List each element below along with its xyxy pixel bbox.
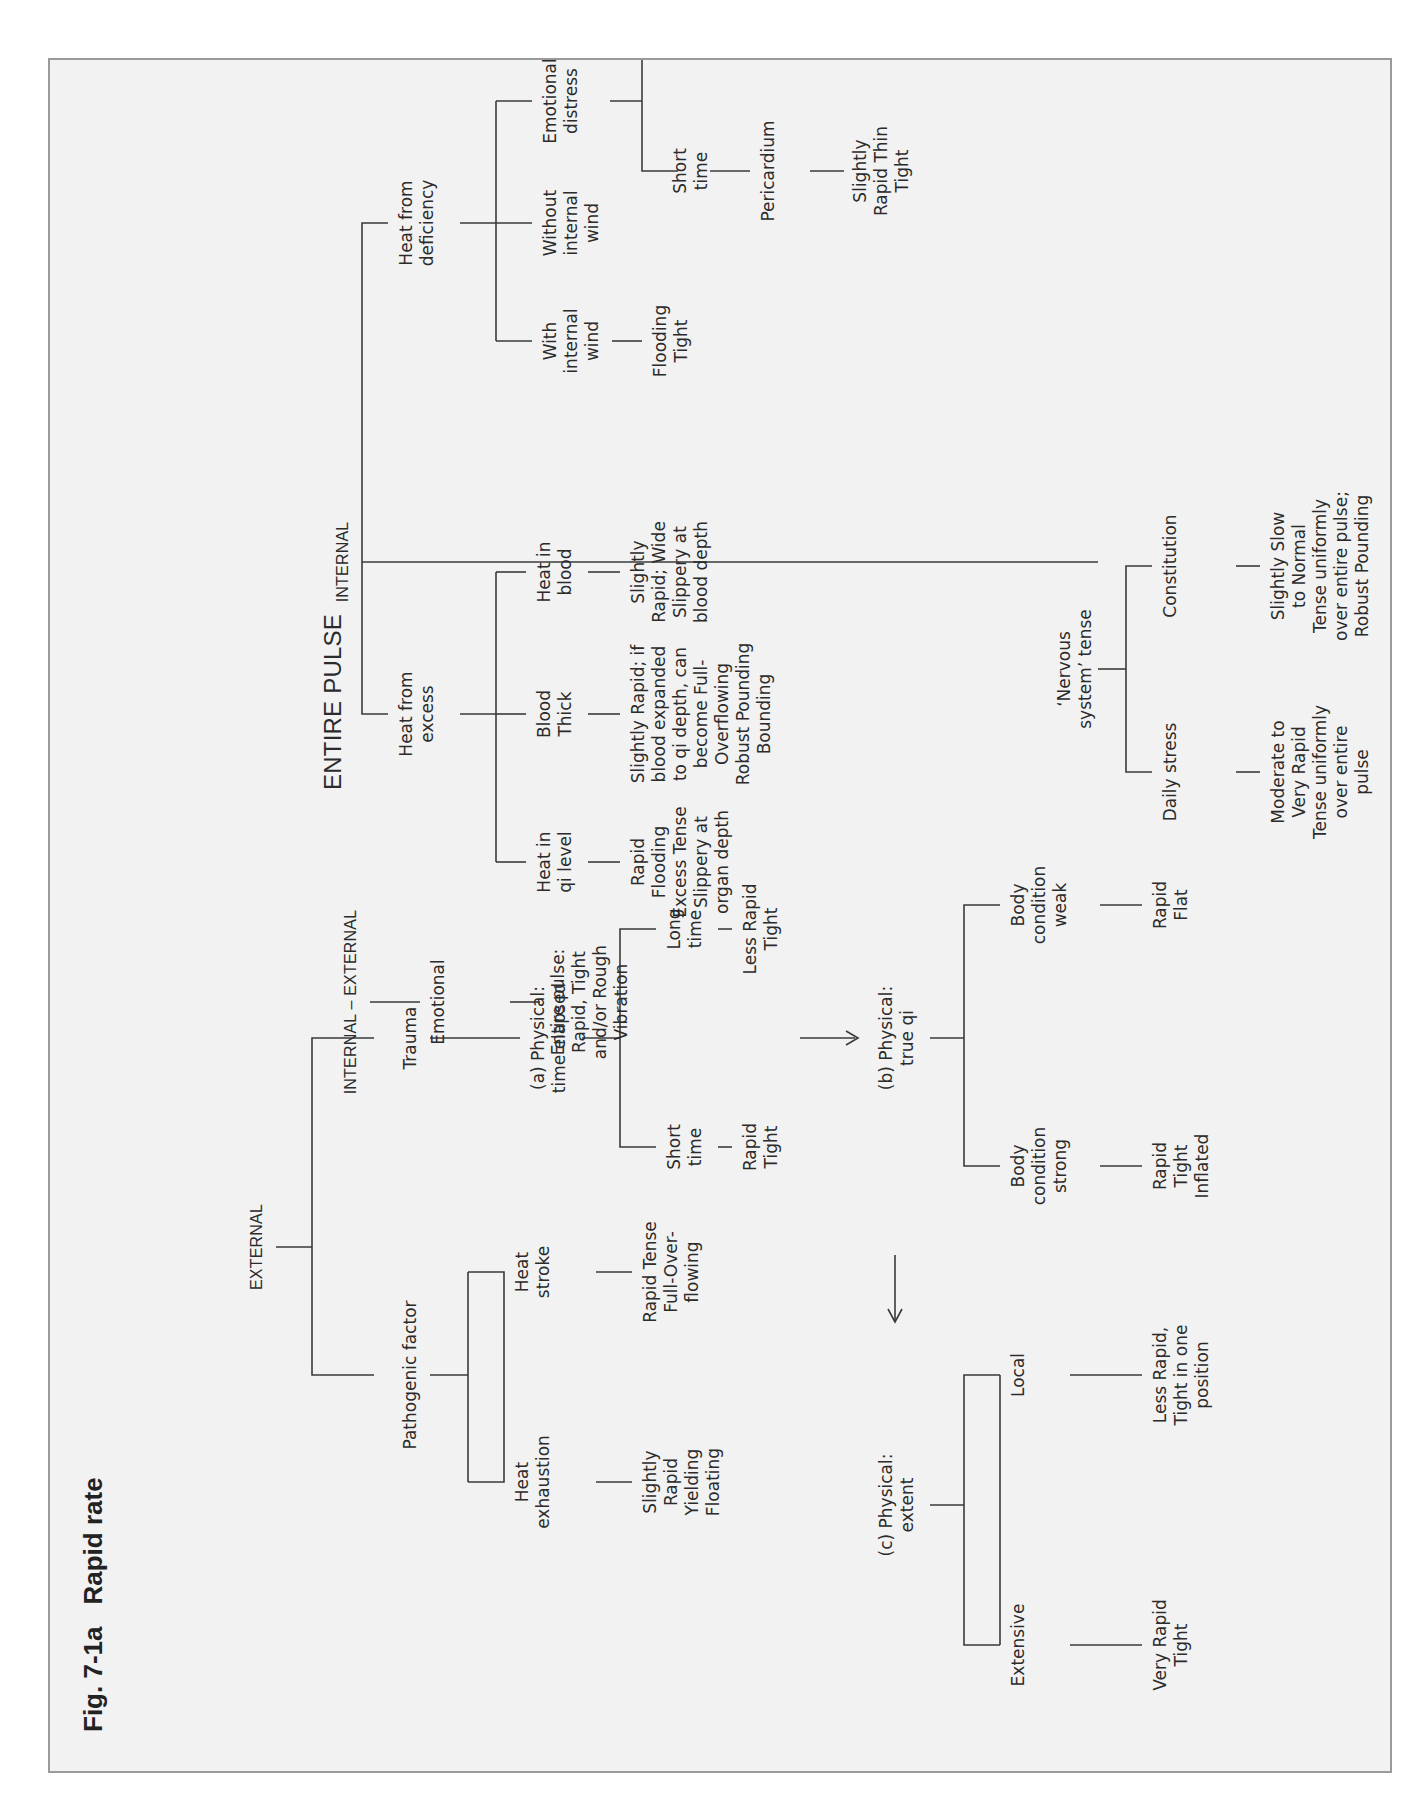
node-pericardium: Pericardium [758, 120, 779, 221]
figure-frame: Fig. 7-1aRapid rate EXTERNAL INTERNAL – … [48, 58, 1392, 1773]
result-heat-in-qi-level: Rapid Flooding Excess Tense Slippery at … [628, 806, 733, 917]
node-emotional-distress: Emotional distress [540, 58, 582, 143]
node-without-internal-wind: Without internal wind [540, 190, 603, 256]
node-local: Local [1008, 1353, 1029, 1397]
result-heat-in-blood: Slightly Rapid; Wide Slippery at blood d… [628, 521, 712, 623]
node-physical-extent: (c) Physical: extent [876, 1454, 918, 1557]
header-entire-pulse: ENTIRE PULSE [322, 614, 343, 790]
node-body-weak: Body condition weak [1008, 866, 1071, 945]
result-body-strong: Rapid Tight Inflated [1150, 1134, 1213, 1199]
node-constitution: Constitution [1160, 514, 1181, 617]
node-extensive: Extensive [1008, 1604, 1029, 1687]
result-long-time-a: Less Rapid Tight [740, 884, 782, 975]
result-blood-thick: Slightly Rapid; if blood expanded to qi … [628, 643, 775, 786]
figure-title-text: Rapid rate [78, 1477, 108, 1604]
figure-number: Fig. 7-1a [78, 1627, 108, 1732]
result-extensive: Very Rapid Tight [1150, 1599, 1192, 1690]
result-daily-stress: Moderate to Very Rapid Tense uniformly o… [1268, 705, 1373, 839]
node-body-strong: Body condition strong [1008, 1127, 1071, 1206]
result-heat-exhaustion: Slightly Rapid Yielding Floating [640, 1448, 724, 1516]
node-heat-from-excess: Heat from excess [396, 671, 438, 756]
result-heat-stroke: Rapid Tense Full-Over- flowing [640, 1221, 703, 1323]
node-short-time-deficiency: Short time [670, 148, 712, 194]
result-with-internal-wind: Flooding Tight [650, 305, 692, 377]
node-nervous-system-tense: ‘Nervous system’ tense [1054, 609, 1096, 728]
node-daily-stress: Daily stress [1160, 723, 1181, 822]
figure-title: Fig. 7-1aRapid rate [78, 1477, 109, 1732]
header-internal-external: INTERNAL – EXTERNAL [340, 910, 361, 1095]
node-trauma: Trauma [400, 1006, 421, 1069]
header-external: EXTERNAL [246, 1204, 267, 1290]
node-heat-stroke: Heat stroke [512, 1246, 554, 1298]
node-pathogenic-factor: Pathogenic factor [400, 1300, 421, 1449]
result-pericardium: Slightly Rapid Thin Tight [850, 126, 913, 216]
result-body-weak: Rapid Flat [1150, 881, 1192, 929]
diagram-canvas: Fig. 7-1aRapid rate EXTERNAL INTERNAL – … [50, 60, 1394, 1775]
result-short-time-a: Rapid Tight [740, 1123, 782, 1171]
node-heat-from-deficiency: Heat from deficiency [396, 180, 438, 267]
node-emotional: Emotional [428, 959, 449, 1044]
result-emotional: Entire pulse: Rapid, Tight and/or Rough … [548, 945, 632, 1059]
node-heat-in-blood: Heat in blood [534, 541, 576, 602]
node-heat-exhaustion: Heat exhaustion [512, 1435, 554, 1529]
node-physical-true-qi: (b) Physical: true qi [876, 986, 918, 1090]
result-local: Less Rapid, Tight in one position [1150, 1325, 1213, 1426]
result-constitution: Slightly Slow to Normal Tense uniformly … [1268, 491, 1373, 641]
node-heat-in-qi-level: Heat in qi level [534, 831, 576, 892]
node-with-internal-wind: With internal wind [540, 308, 603, 373]
header-internal: INTERNAL [332, 522, 353, 603]
node-short-time-a: Short time [664, 1124, 706, 1170]
node-blood-thick: Blood Thick [534, 690, 576, 738]
